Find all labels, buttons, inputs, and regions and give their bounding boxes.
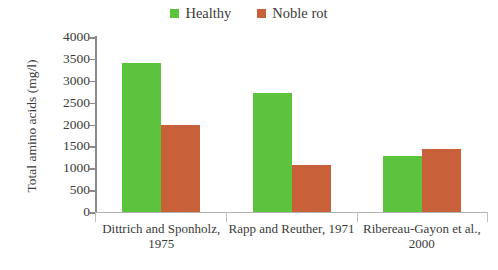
bar-noble-rot[interactable] (161, 125, 200, 212)
x-axis-end-tick (487, 212, 488, 222)
y-axis-line (95, 36, 97, 213)
y-axis-tick-label: 2500 (46, 96, 90, 110)
y-axis-tick-labels: 40003500300025002000150010005000 (42, 0, 90, 270)
legend-swatch-noble-rot (257, 9, 266, 18)
y-axis-tick-label: 3500 (46, 52, 90, 66)
category-divider (357, 212, 358, 222)
bar-healthy[interactable] (122, 63, 161, 212)
legend-swatch-healthy (170, 9, 179, 18)
y-axis-tick-label: 3000 (46, 74, 90, 88)
y-axis-tick-label: 0 (46, 205, 90, 219)
bar-noble-rot[interactable] (422, 149, 461, 212)
category-divider (95, 212, 96, 222)
y-axis-tick-label: 2000 (46, 118, 90, 132)
y-axis-tick-label: 1500 (46, 139, 90, 153)
y-axis-tick-label: 1000 (46, 161, 90, 175)
bar-chart: Healthy Noble rot Total amino acids (mg/… (0, 0, 498, 270)
legend-label-healthy: Healthy (185, 6, 231, 21)
y-axis-title: Total amino acids (mg/l) (24, 26, 40, 226)
category-label: Dittrich and Sponholz, 1975 (96, 222, 226, 251)
y-axis-tick-label: 4000 (46, 30, 90, 44)
category-label: Ribereau-Gayon et al., 2000 (357, 222, 487, 251)
category-label: Rapp and Reuther, 1971 (226, 222, 356, 237)
bar-healthy[interactable] (253, 93, 292, 212)
category-divider (226, 212, 227, 222)
bar-noble-rot[interactable] (292, 165, 331, 212)
legend-label-noble-rot: Noble rot (272, 6, 327, 21)
y-axis-tick-label: 500 (46, 183, 90, 197)
bar-healthy[interactable] (383, 156, 422, 212)
legend-item-noble-rot[interactable]: Noble rot (257, 6, 327, 21)
legend-item-healthy[interactable]: Healthy (170, 6, 231, 21)
